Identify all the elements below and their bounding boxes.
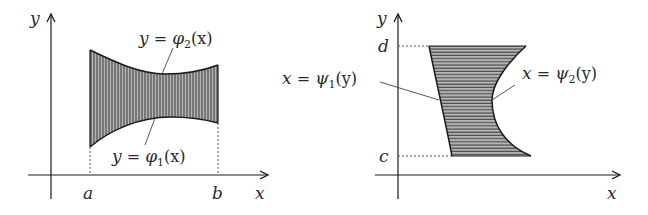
leader-psi2 xyxy=(492,85,515,100)
right-y-axis-label: y xyxy=(376,8,387,28)
type-two-region xyxy=(429,46,531,156)
right-panel: y x d c x = ψ1(y) x = ψ2(y) xyxy=(282,8,620,203)
label-upper-curve: y = φ2(x) xyxy=(138,28,213,51)
type-one-region xyxy=(90,50,218,147)
tick-label-b: b xyxy=(212,183,223,203)
left-y-axis-label: y xyxy=(29,8,40,28)
tick-label-c: c xyxy=(379,146,389,166)
label-right-curve: x = ψ2(y) xyxy=(522,63,597,86)
leader-phi1 xyxy=(145,118,155,145)
tick-label-a: a xyxy=(83,183,93,203)
label-left-curve: x = ψ1(y) xyxy=(282,68,357,91)
left-x-axis-label: x xyxy=(255,183,265,203)
left-panel: y x a b y = φ2(x) y = φ1(x) xyxy=(28,8,268,203)
leader-phi2 xyxy=(162,48,173,74)
double-integral-regions-figure: y x a b y = φ2(x) y = φ1(x) y x d c xyxy=(0,0,648,215)
leader-psi1 xyxy=(380,82,439,100)
tick-label-d: d xyxy=(378,36,389,56)
label-lower-curve: y = φ1(x) xyxy=(111,146,186,169)
right-x-axis-label: x xyxy=(607,183,617,203)
